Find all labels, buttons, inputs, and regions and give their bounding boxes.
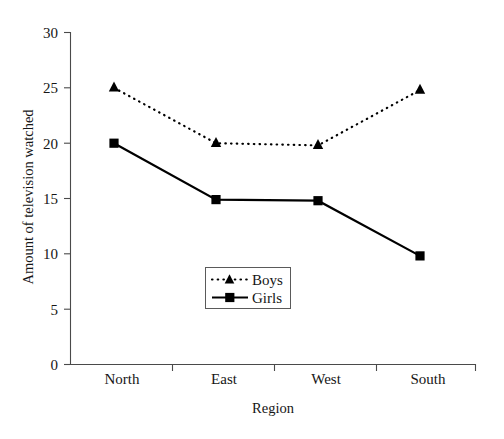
x-tick-label-east: East [211,371,238,387]
y-tick-label-20: 20 [43,136,58,152]
legend-square-marker [225,293,234,302]
legend-label-girls: Girls [252,290,282,306]
girls-point-north [109,139,118,148]
y-tick-label-25: 25 [43,80,58,96]
legend: Boys Girls [206,268,291,309]
x-tick-label-south: South [410,371,446,387]
x-tick-label-north: North [105,371,140,387]
x-tick-label-west: West [311,371,341,387]
chart-canvas: 30 25 20 15 10 5 0 North East West South… [0,0,504,439]
legend-label-boys: Boys [252,272,283,288]
girls-point-south [415,251,424,260]
y-tick-label-5: 5 [51,302,59,318]
y-tick-label-0: 0 [51,357,59,373]
y-tick-label-30: 30 [43,25,58,41]
y-tick-label-15: 15 [43,191,58,207]
x-axis-title: Region [252,400,295,416]
girls-point-east [211,195,220,204]
line-chart: 30 25 20 15 10 5 0 North East West South… [0,0,504,439]
girls-point-west [313,196,322,205]
y-axis-title: Amount of television watched [20,109,36,285]
y-tick-label-10: 10 [43,246,58,262]
